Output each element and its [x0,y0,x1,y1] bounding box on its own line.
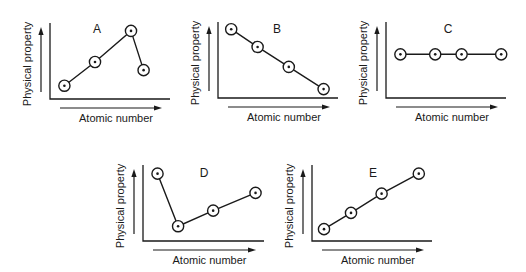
data-point [59,80,70,91]
data-point [250,187,261,198]
data-point-dot [256,46,259,49]
data-point [456,49,467,60]
chart-title: A [93,22,101,36]
data-point-dot [323,228,326,231]
chart-panel-c: Atomic numberPhysical propertyC [357,20,507,123]
data-point-dot [434,53,437,56]
data-point-dot [322,88,325,91]
chart-panel-a: Atomic numberPhysical propertyA [21,21,170,124]
data-point-dot [94,61,97,64]
y-axis-label: Physical property [283,163,295,248]
charts-canvas: Atomic numberPhysical propertyAAtomic nu… [0,0,526,272]
y-axis-label: Physical property [357,20,369,105]
x-axis-label: Atomic number [341,254,415,266]
x-arrow-head [154,105,162,110]
data-point-dot [212,209,215,212]
y-arrow-head [38,27,43,35]
x-arrow-head [322,104,330,109]
data-point [208,205,219,216]
chart-panel-e: Atomic numberPhysical propertyE [283,163,432,266]
x-arrow-head [490,104,498,109]
data-point-dot [288,66,291,69]
data-point-dot [254,192,257,195]
data-point-dot [230,28,233,31]
x-axis-label: Atomic number [173,254,247,266]
data-point [152,168,163,179]
y-arrow-head [374,26,379,34]
x-arrow-head [248,247,256,252]
data-point [430,49,441,60]
data-point-dot [460,53,463,56]
data-point-dot [418,172,421,175]
chart-title: E [369,166,377,180]
chart-panel-b: Atomic numberPhysical propertyB [189,20,338,123]
chart-figure: Atomic numberPhysical propertyAAtomic nu… [0,0,526,272]
y-arrow-head [300,169,305,177]
data-point-dot [380,192,383,195]
data-point [496,49,507,60]
y-axis-label: Physical property [114,163,126,248]
x-axis-label: Atomic number [415,111,489,123]
data-point-dot [350,212,353,215]
data-point-dot [142,69,145,72]
chart-title: D [200,166,209,180]
data-point-dot [156,172,159,175]
data-point [226,24,237,35]
data-point [413,168,424,179]
data-point [89,56,100,67]
y-arrow-head [206,26,211,34]
series-line [158,174,256,227]
x-axis-label: Atomic number [79,112,153,124]
data-point [345,207,356,218]
data-point [395,49,406,60]
series-line [231,29,323,89]
data-point [318,84,329,95]
chart-panel-d: Atomic numberPhysical propertyD [114,163,264,266]
data-point-dot [177,225,180,228]
data-point [172,221,183,232]
x-arrow-head [416,247,424,252]
y-axis-label: Physical property [21,21,33,106]
data-point [125,25,136,36]
chart-title: B [273,22,281,36]
series-line [324,174,419,230]
chart-title: C [444,22,453,36]
data-point [138,65,149,76]
data-point-dot [130,30,133,33]
data-point [283,61,294,72]
y-axis-label: Physical property [189,20,201,105]
data-point [318,224,329,235]
data-point [252,41,263,52]
y-arrow-head [131,169,136,177]
series-line [64,31,143,86]
data-point-dot [500,53,503,56]
x-axis-label: Atomic number [247,111,321,123]
data-point-dot [399,53,402,56]
data-point-dot [63,84,66,87]
data-point [376,188,387,199]
